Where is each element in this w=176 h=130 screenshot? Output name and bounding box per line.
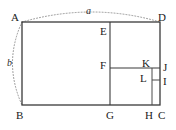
- dimension-label-a: a: [86, 6, 91, 16]
- vertex-label-c: C: [158, 110, 165, 121]
- geometry-figure: A B C D E F G H I J K L a b: [0, 0, 176, 130]
- outer-rectangle-abcd: [22, 22, 160, 105]
- vertex-label-h: H: [145, 110, 153, 121]
- arc-a-dotted: [22, 12, 160, 22]
- vertex-label-a: A: [11, 12, 19, 23]
- vertex-label-l: L: [140, 73, 147, 84]
- vertex-label-f: F: [100, 60, 106, 71]
- vertex-label-d: D: [158, 12, 166, 23]
- vertex-label-g: G: [106, 110, 114, 121]
- vertex-label-b: B: [16, 110, 23, 121]
- vertex-label-k: K: [142, 58, 150, 69]
- arc-b-dotted: [13, 22, 23, 105]
- vertex-label-i: I: [163, 76, 167, 87]
- dimension-label-b: b: [7, 58, 12, 68]
- vertex-label-j: J: [163, 62, 167, 73]
- vertex-label-e: E: [100, 26, 107, 37]
